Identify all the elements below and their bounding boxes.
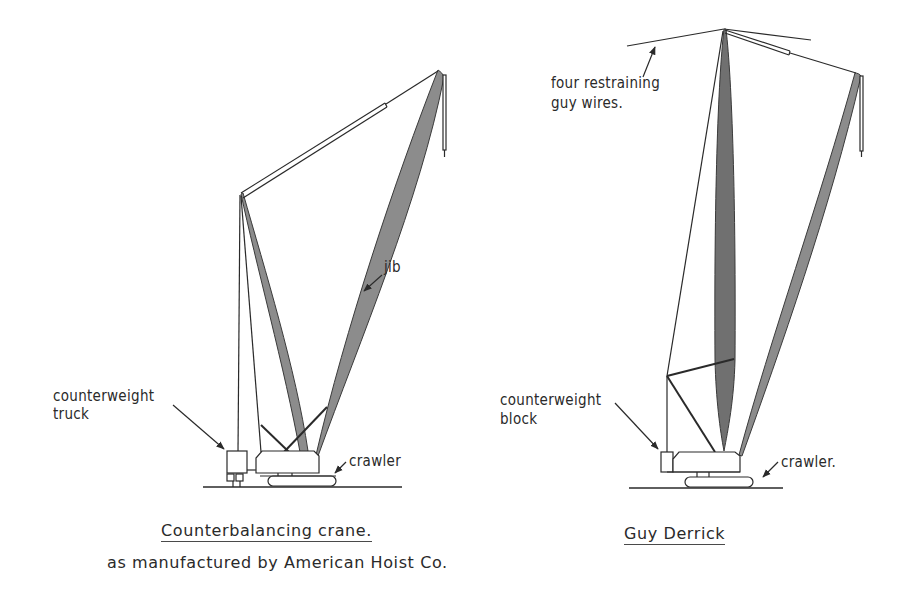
- guy-wires-leader: [643, 47, 655, 77]
- strut-diagonal: [667, 376, 715, 452]
- hook-block-left: [443, 75, 446, 150]
- crawler-track-right: [685, 477, 753, 487]
- crane-comparison-figure: jib counterweight truck crawler Counterb…: [0, 0, 916, 616]
- guy-derrick-title: Guy Derrick: [624, 524, 725, 545]
- crawler-leader-left: [335, 462, 346, 473]
- counterweight-block: [661, 452, 673, 472]
- crawler-body-right: [673, 452, 740, 472]
- guy-wire-left: [627, 29, 724, 46]
- derrick-jib: [739, 73, 861, 456]
- counterweight-block-label-line2: block: [500, 410, 537, 428]
- crawler-body-left: [256, 451, 319, 473]
- counterbalancing-crane: [173, 70, 446, 487]
- crawler-label-left: crawler: [349, 452, 401, 470]
- counterweight-block-label-line1: counterweight: [500, 391, 601, 409]
- counterweight-truck: [227, 451, 247, 473]
- backstay-vertical: [238, 195, 240, 452]
- crawler-label-right: crawler.: [781, 453, 836, 471]
- crawler-track-left: [268, 476, 336, 486]
- jib-label: jib: [384, 258, 401, 276]
- derrick-mast: [715, 29, 735, 451]
- crawler-leader-right: [763, 462, 778, 477]
- brace-1: [261, 425, 289, 452]
- crane-drawing: [0, 0, 916, 616]
- counterweight-truck-label-line1: counterweight: [53, 387, 154, 405]
- counterbalancing-crane-subtitle: as manufactured by American Hoist Co.: [107, 553, 448, 572]
- main-jib: [316, 70, 444, 456]
- derrick-pendant-line: [790, 53, 856, 73]
- guy-wires-label-line1: four restraining: [551, 74, 660, 92]
- counterweight-truck-label-line2: truck: [53, 405, 89, 423]
- guy-derrick: [615, 29, 863, 488]
- guy-wires-label-line2: guy wires.: [551, 94, 623, 112]
- counterweight-truck-leader: [173, 405, 224, 449]
- counterbalancing-crane-title: Counterbalancing crane.: [161, 521, 372, 542]
- counterweight-block-leader: [615, 403, 658, 449]
- hook-block-right: [860, 76, 863, 151]
